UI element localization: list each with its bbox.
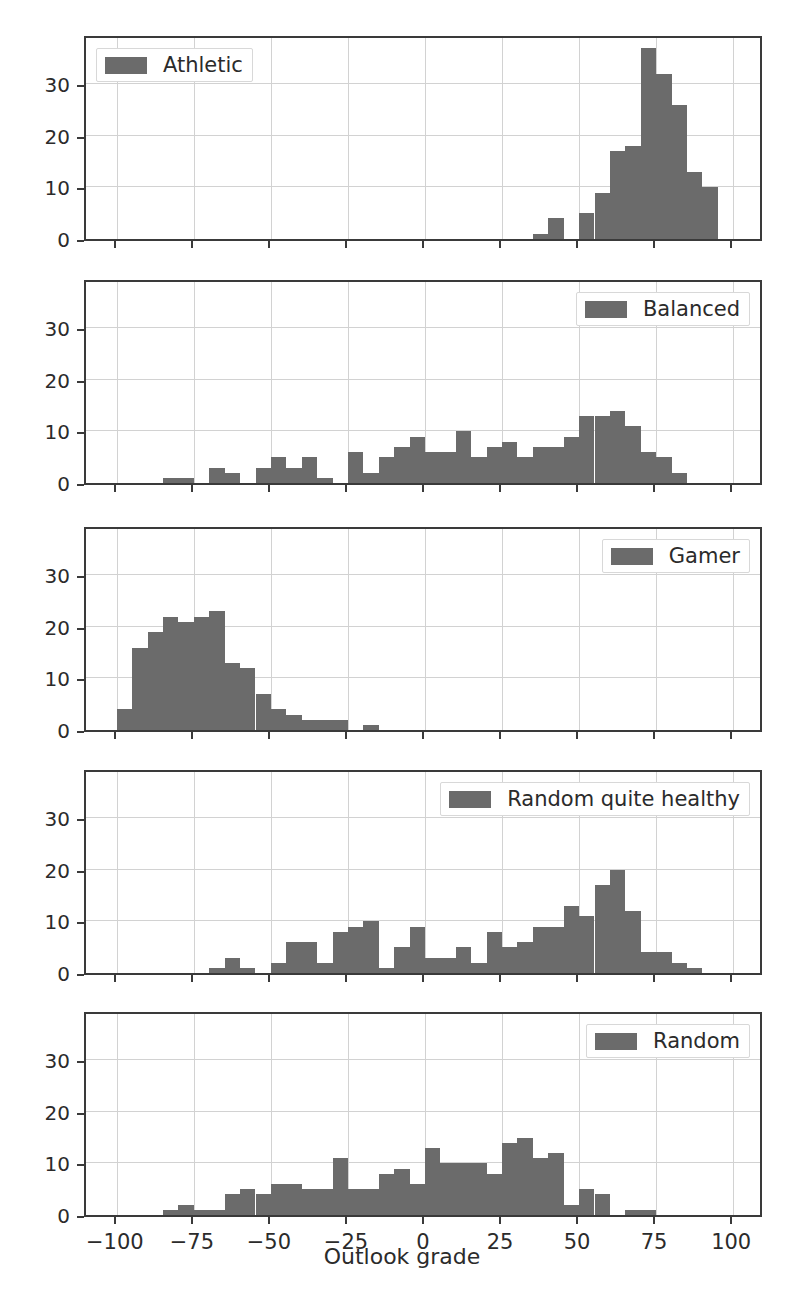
legend-balanced[interactable]: Balanced — [576, 292, 750, 326]
histogram-bar — [471, 1163, 486, 1215]
histogram-bar — [333, 932, 348, 973]
histogram-bar — [363, 725, 378, 730]
histogram-bar — [641, 452, 656, 483]
legend-random_quite_healthy[interactable]: Random quite healthy — [440, 782, 750, 816]
histogram-bar — [641, 48, 656, 239]
figure-canvas: 0102030−100−75−50−250255075100Random0102… — [0, 0, 804, 1313]
x-tick-mark — [653, 1217, 655, 1224]
y-tick-label: 30 — [16, 809, 70, 829]
histogram-bar — [209, 611, 224, 730]
histogram-bar — [672, 473, 687, 483]
histogram-bar — [564, 437, 579, 483]
histogram-bar — [225, 663, 240, 730]
histogram-bar — [240, 668, 255, 730]
legend-athletic[interactable]: Athletic — [96, 48, 253, 82]
histogram-bar — [579, 1189, 594, 1215]
x-tick-mark — [268, 241, 270, 248]
histogram-bar — [579, 416, 594, 483]
y-tick-label: 20 — [16, 618, 70, 638]
x-tick-mark — [345, 975, 347, 982]
histogram-bar — [348, 1189, 363, 1215]
histogram-bar — [625, 426, 640, 483]
histogram-bar — [363, 473, 378, 483]
histogram-bar — [548, 447, 563, 483]
y-tick-mark — [77, 240, 84, 242]
x-tick-mark — [422, 732, 424, 739]
legend-label: Gamer — [669, 545, 740, 567]
gridline-horizontal — [86, 1111, 760, 1112]
x-tick-mark — [345, 485, 347, 492]
histogram-bar — [317, 1189, 332, 1215]
x-tick-mark — [576, 1217, 578, 1224]
x-tick-mark — [730, 732, 732, 739]
x-tick-mark — [730, 485, 732, 492]
y-tick-mark — [77, 188, 84, 190]
y-tick-mark — [77, 1216, 84, 1218]
histogram-bar — [610, 870, 625, 973]
histogram-bar — [502, 442, 517, 483]
gridline-vertical — [348, 38, 349, 239]
histogram-bar — [117, 709, 132, 730]
x-tick-mark — [114, 975, 116, 982]
histogram-bar — [425, 958, 440, 973]
histogram-bar — [271, 457, 286, 483]
histogram-bar — [379, 1174, 394, 1215]
x-tick-mark — [268, 975, 270, 982]
gridline-vertical — [194, 772, 195, 973]
y-tick-mark — [77, 576, 84, 578]
gridline-horizontal — [86, 379, 760, 380]
histogram-bar — [471, 457, 486, 483]
y-tick-label: 10 — [16, 422, 70, 442]
gridline-horizontal — [86, 430, 760, 431]
legend-gamer[interactable]: Gamer — [602, 539, 750, 573]
histogram-bar — [440, 1163, 455, 1215]
gridline-horizontal — [86, 574, 760, 575]
x-tick-mark — [422, 485, 424, 492]
histogram-panel-random: 0102030−100−75−50−250255075100Random — [0, 1012, 804, 1257]
y-tick-label: 30 — [16, 1051, 70, 1071]
x-tick-mark — [114, 485, 116, 492]
histogram-bar — [178, 1205, 193, 1215]
gridline-vertical — [271, 282, 272, 483]
y-tick-label: 10 — [16, 1154, 70, 1174]
x-tick-mark — [268, 732, 270, 739]
histogram-bar — [317, 963, 332, 973]
histogram-bar — [656, 952, 671, 973]
x-tick-mark — [268, 485, 270, 492]
histogram-bar — [163, 1210, 178, 1215]
y-tick-label: 30 — [16, 319, 70, 339]
gridline-vertical — [502, 529, 503, 730]
histogram-bar — [410, 1184, 425, 1215]
histogram-bar — [271, 1184, 286, 1215]
histogram-bar — [271, 963, 286, 973]
histogram-bar — [641, 952, 656, 973]
histogram-bar — [456, 1163, 471, 1215]
gridline-horizontal — [86, 327, 760, 328]
histogram-bar — [425, 452, 440, 483]
histogram-bar — [595, 885, 610, 973]
gridline-horizontal — [86, 1162, 760, 1163]
x-tick-mark — [268, 1217, 270, 1224]
y-tick-label: 0 — [16, 964, 70, 984]
histogram-bar — [687, 968, 702, 973]
legend-color-swatch — [611, 548, 653, 565]
y-tick-mark — [77, 922, 84, 924]
histogram-bar — [548, 218, 563, 239]
histogram-bar — [595, 416, 610, 483]
gridline-vertical — [579, 529, 580, 730]
histogram-bar — [302, 1189, 317, 1215]
histogram-bar — [363, 1189, 378, 1215]
histogram-bar — [163, 617, 178, 730]
histogram-bar — [132, 648, 147, 730]
x-tick-mark — [653, 485, 655, 492]
gridline-horizontal — [86, 817, 760, 818]
histogram-bar — [672, 105, 687, 239]
legend-random[interactable]: Random — [586, 1024, 750, 1058]
histogram-bar — [363, 921, 378, 973]
histogram-bar — [302, 720, 317, 730]
gridline-vertical — [117, 529, 118, 730]
x-tick-mark — [345, 732, 347, 739]
histogram-bar — [595, 1194, 610, 1215]
x-tick-mark — [422, 241, 424, 248]
histogram-bar — [579, 213, 594, 239]
